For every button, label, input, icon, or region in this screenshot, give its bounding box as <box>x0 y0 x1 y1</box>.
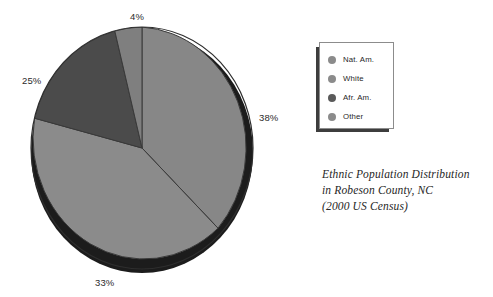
pie-label-other: 4% <box>130 12 144 22</box>
legend-label-white: White <box>343 74 364 83</box>
caption-line-1: Ethnic Population Distribution <box>322 166 487 182</box>
pie-chart-graphic <box>0 0 300 297</box>
pie-label-white: 33% <box>95 278 114 288</box>
legend-swatch-circle-icon <box>328 94 336 102</box>
legend-item-white[interactable]: White <box>320 69 393 88</box>
legend-swatch-circle-icon <box>328 75 336 83</box>
chart-legend: Nat. Am. White Afr. Am. Other <box>319 42 394 129</box>
legend-swatch-circle-icon <box>328 56 336 64</box>
pie-label-afr-am: 25% <box>22 76 41 86</box>
caption-line-2: in Robeson County, NC <box>322 182 487 198</box>
legend-label-other: Other <box>343 112 363 121</box>
caption-line-3: (2000 US Census) <box>322 198 487 214</box>
legend-label-nat-am: Nat. Am. <box>343 55 374 64</box>
chart-caption: Ethnic Population Distribution in Robeso… <box>322 166 487 214</box>
legend-item-other[interactable]: Other <box>320 107 393 126</box>
legend-label-afr-am: Afr. Am. <box>343 93 372 102</box>
legend-swatch-circle-icon <box>328 113 336 121</box>
legend-item-nat-am[interactable]: Nat. Am. <box>320 50 393 69</box>
pie-chart-figure: 38% 33% 25% 4% <box>0 0 300 297</box>
pie-label-nat-am: 38% <box>259 113 278 123</box>
legend-item-afr-am[interactable]: Afr. Am. <box>320 88 393 107</box>
